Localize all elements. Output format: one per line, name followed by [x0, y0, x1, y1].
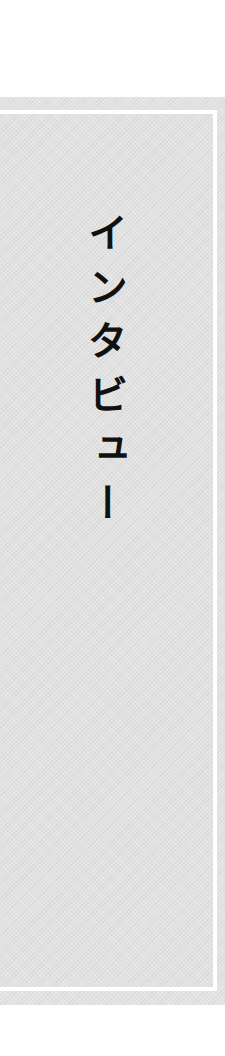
section-title: インタビュー [82, 212, 128, 536]
